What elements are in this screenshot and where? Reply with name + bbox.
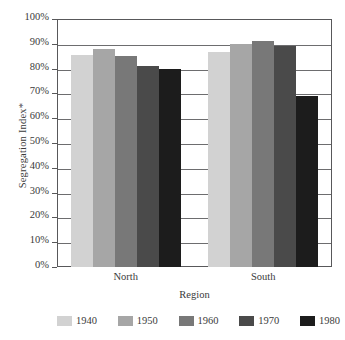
bar-groups bbox=[57, 19, 332, 267]
bar-group-north bbox=[57, 19, 195, 267]
legend-label: 1940 bbox=[76, 315, 97, 326]
x-axis-category-south: South bbox=[195, 271, 333, 282]
legend-swatch-icon bbox=[57, 316, 72, 326]
bars bbox=[195, 19, 333, 267]
legend-swatch-icon bbox=[179, 316, 194, 326]
bar-north-1980[interactable] bbox=[159, 69, 181, 267]
legend: 19401950196019701980 bbox=[57, 315, 340, 326]
y-axis-tick-label: 100% bbox=[25, 11, 50, 22]
legend-item-1970[interactable]: 1970 bbox=[239, 315, 279, 326]
legend-label: 1950 bbox=[137, 315, 158, 326]
y-axis-tick-label: 90% bbox=[30, 36, 49, 47]
bar-south-1950[interactable] bbox=[230, 44, 252, 267]
bar-south-1980[interactable] bbox=[296, 96, 318, 267]
legend-swatch-icon bbox=[239, 316, 254, 326]
bar-south-1970[interactable] bbox=[274, 46, 296, 267]
legend-item-1940[interactable]: 1940 bbox=[57, 315, 97, 326]
y-axis-tick-label: 40% bbox=[30, 160, 49, 171]
bar-north-1950[interactable] bbox=[93, 49, 115, 267]
y-axis-ticks: 0%10%20%30%40%50%60%70%80%90%100% bbox=[0, 19, 57, 267]
legend-item-1950[interactable]: 1950 bbox=[118, 315, 158, 326]
y-axis-tick-label: 0% bbox=[35, 259, 49, 270]
y-axis-tick-label: 10% bbox=[30, 234, 49, 245]
bar-group-south bbox=[195, 19, 333, 267]
bar-south-1960[interactable] bbox=[252, 41, 274, 267]
x-axis-title: Region bbox=[57, 289, 332, 300]
bar-chart: Segregation Index* 0%10%20%30%40%50%60%7… bbox=[0, 0, 345, 340]
legend-label: 1970 bbox=[258, 315, 279, 326]
x-axis-category-labels: NorthSouth bbox=[57, 271, 332, 282]
y-axis-tick-label: 50% bbox=[30, 135, 49, 146]
bar-north-1940[interactable] bbox=[71, 55, 93, 267]
bar-north-1960[interactable] bbox=[115, 56, 137, 267]
bar-south-1940[interactable] bbox=[208, 52, 230, 267]
x-axis-category-north: North bbox=[57, 271, 195, 282]
legend-item-1980[interactable]: 1980 bbox=[300, 315, 340, 326]
legend-swatch-icon bbox=[300, 316, 315, 326]
legend-swatch-icon bbox=[118, 316, 133, 326]
bars bbox=[57, 19, 195, 267]
y-axis-tick-label: 60% bbox=[30, 110, 49, 121]
y-axis-tick-label: 20% bbox=[30, 209, 49, 220]
legend-item-1960[interactable]: 1960 bbox=[179, 315, 219, 326]
legend-label: 1980 bbox=[319, 315, 340, 326]
y-axis-tick-label: 30% bbox=[30, 185, 49, 196]
y-axis-tick-label: 70% bbox=[30, 85, 49, 96]
y-axis-tick-label: 80% bbox=[30, 61, 49, 72]
bar-north-1970[interactable] bbox=[137, 66, 159, 267]
y-axis-tick-mark bbox=[52, 267, 57, 268]
legend-label: 1960 bbox=[198, 315, 219, 326]
